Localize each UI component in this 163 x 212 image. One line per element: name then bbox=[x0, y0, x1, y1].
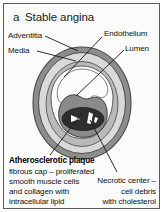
necrotic-line-3: with cholesterol bbox=[78, 197, 156, 208]
necrotic-line-1: Necrotic center – bbox=[78, 176, 156, 187]
panel-letter: a bbox=[13, 11, 19, 23]
plaque-heading: Atherosclerotic plaque bbox=[9, 156, 101, 166]
label-endothelium: Endothelium bbox=[104, 30, 147, 39]
label-lumen: Lumen bbox=[125, 45, 149, 54]
figure-panel: a Stable angina Adventitia Media Endothe… bbox=[0, 0, 163, 212]
leader-line-adventitia bbox=[45, 36, 78, 51]
necrotic-line-2: cell debris bbox=[78, 187, 156, 198]
necrotic-center-caption-block: Necrotic center – cell debris with chole… bbox=[78, 176, 156, 208]
label-adventitia: Adventitia bbox=[8, 32, 42, 41]
label-media: Media bbox=[8, 47, 29, 56]
panel-title: Stable angina bbox=[25, 11, 94, 23]
necrotic-core bbox=[62, 108, 104, 131]
